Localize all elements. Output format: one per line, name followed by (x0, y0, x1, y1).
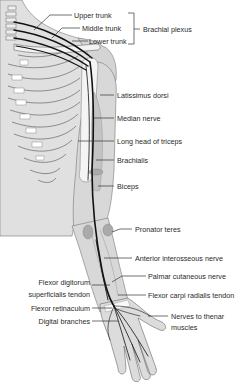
label-digital-branches: Digital branches (38, 317, 90, 326)
label-middle-trunk: Middle trunk (82, 24, 122, 33)
label-pronator-teres: Pronator teres (135, 225, 181, 234)
label-fds-tendon-line2: superficialis tendon (28, 290, 90, 299)
label-biceps: Biceps (117, 182, 139, 191)
label-upper-trunk: Upper trunk (74, 11, 112, 20)
label-flexor-retinaculum: Flexor retinaculum (31, 304, 90, 313)
label-long-head-triceps: Long head of triceps (117, 137, 183, 146)
label-brachialis: Brachialis (117, 156, 149, 165)
label-brachial-plexus: Brachial plexus (143, 25, 192, 34)
label-anterior-interosseous: Anterior interosseous nerve (135, 254, 223, 263)
label-thenar-line2: muscles (171, 323, 198, 332)
label-thenar-line1: Nerves to thenar (171, 312, 225, 321)
label-median-nerve: Median nerve (117, 114, 161, 123)
median-nerve-diagram: Upper trunk Middle trunk Lower trunk Bra… (0, 0, 237, 385)
label-latissimus-dorsi: Latissimus dorsi (117, 91, 169, 100)
label-fcr-tendon: Flexor carpi radialis tendon (148, 291, 234, 300)
label-fds-tendon-line1: Flexor digitorum (38, 278, 90, 287)
label-lower-trunk: Lower trunk (89, 37, 127, 46)
label-palmar-cutaneous: Palmar cutaneous nerve (148, 272, 226, 281)
